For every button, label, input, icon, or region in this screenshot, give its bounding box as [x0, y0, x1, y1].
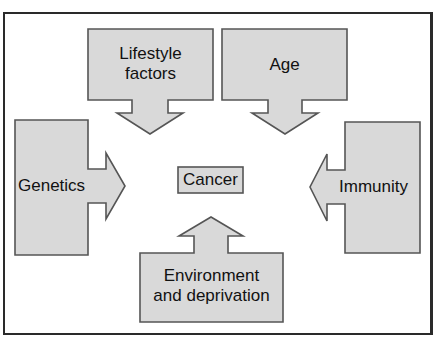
environment-label: Environment and deprivation: [140, 266, 283, 306]
lifestyle-label-line1: Lifestyle: [88, 44, 213, 64]
age-label: Age: [222, 55, 347, 75]
lifestyle-label-line2: factors: [88, 64, 213, 84]
genetics-label: Genetics: [18, 176, 108, 196]
immunity-label: Immunity: [339, 177, 429, 197]
lifestyle-label: Lifestyle factors: [88, 44, 213, 84]
environment-label-line2: and deprivation: [140, 286, 283, 306]
environment-label-line1: Environment: [140, 266, 283, 286]
cancer-label: Cancer: [178, 170, 243, 190]
age-arrow-shape: [222, 29, 347, 134]
